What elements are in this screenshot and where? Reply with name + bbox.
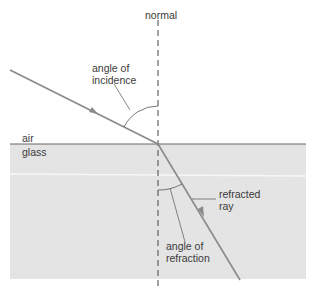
normal-label: normal [145, 9, 177, 21]
incident-arrow-icon [89, 107, 98, 114]
refraction-diagram: normal angle of incidence air glass refr… [0, 0, 314, 286]
glass-label: glass [22, 146, 47, 158]
diagram-canvas [0, 0, 314, 286]
refracted-ray-label-2: ray [219, 200, 234, 212]
incidence-leader [114, 84, 130, 110]
angle-incidence-label-1: angle of [92, 62, 129, 74]
angle-incidence-label-2: incidence [92, 74, 136, 86]
angle-refraction-label-2: refraction [166, 252, 210, 264]
angle-refraction-label-1: angle of [166, 240, 203, 252]
air-label: air [22, 132, 34, 144]
refracted-ray-label-1: refracted [219, 188, 260, 200]
